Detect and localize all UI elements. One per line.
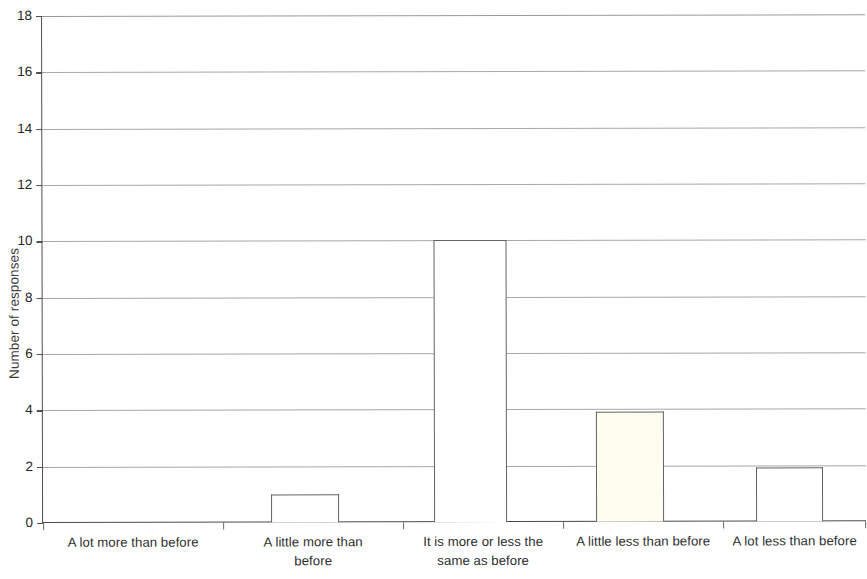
x-axis-tick-label: A little less than before — [563, 531, 723, 550]
gridline — [42, 71, 865, 74]
y-axis-line — [41, 16, 43, 523]
y-axis-tick — [36, 185, 42, 186]
y-axis-tick-label: 0 — [5, 516, 33, 530]
x-axis-tick — [43, 523, 44, 530]
gridline — [42, 183, 865, 186]
x-axis-tick-label: It is more or less thesame as before — [403, 532, 563, 570]
x-axis-tick — [865, 521, 866, 528]
x-axis-tick-label: A lot less than before — [723, 531, 866, 550]
x-axis-tick — [723, 521, 724, 528]
bar-chart: Number of responses 024681012141618 A lo… — [0, 0, 867, 579]
y-axis-tick-label: 18 — [4, 9, 32, 23]
x-axis-tick-label: A little more thanbefore — [223, 532, 403, 570]
y-axis-tick — [36, 16, 42, 17]
y-axis-tick-label: 10 — [4, 234, 32, 248]
y-axis-tick — [37, 410, 43, 411]
plot-area — [42, 14, 866, 523]
y-axis-tick — [36, 72, 42, 73]
x-axis-tick-labels: A lot more than beforeA little more than… — [43, 531, 866, 579]
y-axis-tick — [37, 241, 43, 242]
y-axis-tick-label: 6 — [5, 347, 33, 361]
bar — [434, 240, 508, 522]
bar — [756, 468, 823, 522]
gridline — [42, 127, 865, 130]
y-axis-tick-label: 12 — [4, 178, 32, 192]
y-axis-tick — [37, 298, 43, 299]
x-axis-tick — [403, 522, 404, 529]
bar — [596, 412, 664, 522]
x-axis-tick — [563, 522, 564, 529]
y-axis-tick-label: 16 — [4, 65, 32, 79]
gridline — [42, 14, 865, 17]
y-axis-tick-label: 8 — [5, 291, 33, 305]
y-axis-tick-label: 14 — [4, 122, 32, 136]
gridlines — [42, 14, 865, 16]
y-axis-tick — [37, 354, 43, 355]
y-axis-tick-label: 4 — [5, 403, 33, 417]
bar — [271, 494, 339, 522]
y-axis-tick — [36, 129, 42, 130]
y-axis-tick — [37, 467, 43, 468]
y-axis-tick-label: 2 — [5, 460, 33, 474]
x-axis-tick-label: A lot more than before — [43, 533, 223, 552]
x-axis-tick — [223, 523, 224, 530]
